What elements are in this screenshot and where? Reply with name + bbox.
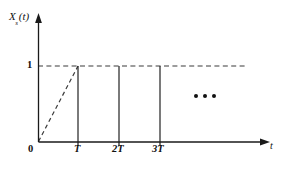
x-axis-arrowhead (260, 139, 270, 146)
ramp-rise-dashed-line (39, 66, 79, 142)
y-axis-label: Xs(t) (9, 11, 29, 25)
x-tick-label-T: T (74, 144, 80, 155)
x-axis-label: t (270, 141, 273, 151)
x-tick-label-2T: 2T (112, 144, 124, 155)
plot-canvas (0, 0, 286, 170)
ellipsis-annotation (194, 94, 216, 98)
ellipsis-dot (203, 94, 207, 98)
waveform-figure: Xs(t) t 0 1 T 2T 3T (0, 0, 286, 170)
y-axis-label-argument: (t) (19, 10, 30, 22)
y-axis-arrowhead (35, 13, 42, 23)
origin-label: 0 (28, 144, 33, 155)
y-tick-label-1: 1 (27, 60, 32, 71)
x-tick-label-3T: 3T (152, 144, 164, 155)
ellipsis-dot (212, 94, 216, 98)
y-axis-label-subscript: s (15, 19, 18, 27)
ellipsis-dot (194, 94, 198, 98)
